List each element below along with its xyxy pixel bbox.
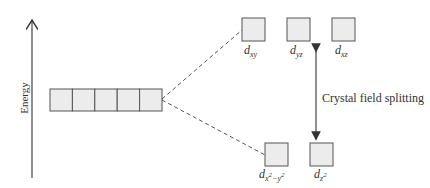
orbital-box <box>140 89 162 111</box>
orbital-box-dxz <box>332 18 355 41</box>
degenerate-orbitals <box>50 89 162 111</box>
label-dxy: dxy <box>244 43 257 59</box>
orbital-box <box>72 89 94 111</box>
orbital-box <box>50 89 72 111</box>
label-dyz: dyz <box>290 43 303 59</box>
crystal-field-splitting-label: Crystal field splitting <box>322 91 424 106</box>
orbital-box-dyz <box>287 18 310 41</box>
energy-axis-label: Energy <box>18 78 30 118</box>
upper-connector-line <box>162 30 242 99</box>
label-dz2: dz2 <box>314 167 327 183</box>
orbital-box <box>95 89 117 111</box>
label-dxz: dxz <box>335 43 348 59</box>
orbital-box-dx2-y2 <box>265 143 288 166</box>
orbital-box-dxy <box>242 18 265 41</box>
orbital-box <box>117 89 139 111</box>
orbital-box-dz2 <box>310 143 333 166</box>
label-dx2-y2: dx2−y2 <box>259 167 285 183</box>
lower-connector-line <box>162 100 265 155</box>
